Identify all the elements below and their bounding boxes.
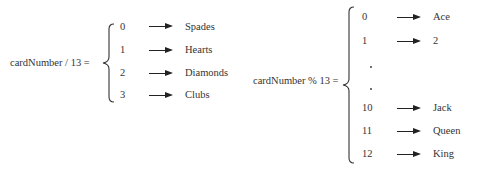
left-expression: cardNumber / 13 = [10,57,90,69]
left-value-2: 2 [120,67,125,79]
right-label-6: King [433,148,454,160]
arrow-icon [397,154,419,155]
right-label-5: Queen [433,125,460,137]
left-label-3: Clubs [185,89,210,101]
arrow-icon [149,50,171,51]
arrow-icon [397,108,419,109]
left-value-3: 3 [120,89,125,101]
arrow-icon [149,95,171,96]
ellipsis-dot [370,88,372,90]
left-value-1: 1 [120,44,125,56]
left-value-0: 0 [120,21,125,33]
right-label-0: Ace [433,11,450,23]
left-brace-icon [100,22,116,104]
right-value-4: 10 [362,102,373,114]
right-brace-icon [340,5,356,165]
arrow-icon [397,41,419,42]
right-label-4: Jack [433,102,452,114]
left-label-1: Hearts [185,44,212,56]
arrow-icon [397,17,419,18]
left-label-2: Diamonds [185,67,228,79]
right-value-0: 0 [362,11,367,23]
right-expression: cardNumber % 13 = [253,75,339,87]
arrow-icon [149,26,171,27]
right-value-1: 1 [362,35,367,47]
ellipsis-dot [370,66,372,68]
right-value-5: 11 [362,125,372,137]
right-label-1: 2 [433,35,438,47]
arrow-icon [149,73,171,74]
left-label-0: Spades [185,21,215,33]
right-value-6: 12 [362,148,373,160]
arrow-icon [397,131,419,132]
